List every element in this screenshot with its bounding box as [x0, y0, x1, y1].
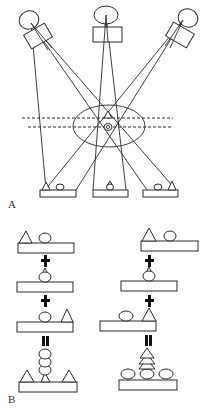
- right-row-2-plate: [121, 281, 177, 291]
- right-row-1-circle: [164, 231, 176, 241]
- right-result-plate: [119, 380, 177, 390]
- detector-right: [143, 181, 178, 197]
- right-result-circle-left: [121, 369, 135, 379]
- right-row-2-circle: [143, 271, 155, 281]
- right-result-circle-center: [140, 369, 154, 379]
- right-plus-1: [145, 255, 154, 267]
- right-result-circle-right: [159, 369, 173, 379]
- left-row-1-triangle: [19, 231, 32, 243]
- right-row-1-triangle: [142, 228, 156, 241]
- left-column: [17, 231, 77, 392]
- detector-left: [40, 182, 76, 197]
- panel-a-label: A: [8, 198, 16, 210]
- source-right: [166, 6, 201, 48]
- object-circle: [104, 124, 112, 131]
- plus-icon-v: [148, 295, 151, 307]
- right-column: [100, 228, 198, 390]
- left-equals: [42, 336, 49, 346]
- detector-center-circle: [107, 184, 114, 190]
- plus-icon-v: [44, 255, 47, 267]
- plus-icon-v: [44, 295, 47, 307]
- left-row-2-circle: [39, 272, 51, 282]
- right-row-3-circle: [119, 311, 133, 321]
- left-row-3-plate: [17, 322, 73, 332]
- left-row-3-triangle: [61, 309, 73, 322]
- left-plus-2: [41, 295, 50, 307]
- left-row-1: [18, 231, 74, 253]
- detector-right-plate: [143, 190, 178, 197]
- panel-b-label: B: [8, 393, 15, 405]
- left-result-plate: [19, 382, 77, 392]
- tomography-figure: A: [0, 0, 210, 408]
- left-result: [19, 349, 77, 392]
- left-result-circle-1: [39, 349, 51, 359]
- detector-right-circle: [154, 184, 162, 190]
- left-row-2-plate: [17, 282, 73, 292]
- equals-icon-bar-2: [149, 335, 152, 346]
- detector-center-plate: [93, 190, 128, 197]
- right-row-2: [121, 267, 177, 291]
- right-row-1-plate: [141, 241, 198, 251]
- panel-b: B: [8, 228, 198, 405]
- left-row-1-plate: [18, 243, 74, 253]
- left-result-triangle-1: [20, 370, 34, 382]
- ray-left-a: [31, 23, 147, 190]
- right-result: [119, 348, 177, 390]
- equals-icon-bar-1: [145, 335, 148, 346]
- left-row-2: [17, 268, 73, 292]
- left-row-1-circle: [39, 233, 51, 243]
- equals-icon-bar-2: [46, 336, 49, 346]
- right-row-3: [100, 308, 156, 331]
- right-row-1: [141, 228, 198, 251]
- right-plus-2: [145, 295, 154, 307]
- detector-left-plate: [40, 190, 76, 197]
- panel-a: A: [8, 6, 201, 210]
- equals-icon-bar-1: [42, 336, 45, 346]
- right-equals: [145, 335, 152, 346]
- right-row-3-triangle: [142, 308, 156, 321]
- plus-icon-v: [148, 255, 151, 267]
- detector-left-circle: [56, 184, 64, 190]
- left-result-triangle-2: [62, 370, 76, 382]
- right-result-triangle-1: [140, 348, 154, 358]
- right-row-3-plate: [100, 321, 156, 331]
- left-plus-1: [41, 255, 50, 267]
- left-row-3-circle: [39, 312, 51, 322]
- detector-center: [93, 181, 128, 197]
- left-row-3: [17, 309, 73, 332]
